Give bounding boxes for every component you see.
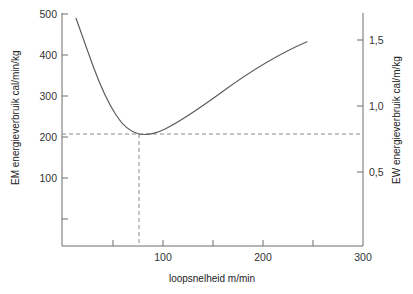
left-tick-label-100: 100 [39, 172, 57, 184]
x-tick-label-300: 300 [354, 251, 372, 263]
chart-page: 500 400 300 200 100 1,5 1,0 0,5 100 200 … [0, 0, 413, 294]
plot-frame [62, 13, 363, 246]
em-energy-curve [76, 18, 307, 134]
x-tick-label-100: 100 [154, 251, 172, 263]
right-tick-label-1-5: 1,5 [369, 34, 384, 46]
left-axis-ticks [62, 14, 68, 219]
left-tick-label-400: 400 [39, 49, 57, 61]
left-tick-label-200: 200 [39, 131, 57, 143]
right-axis-ticks [357, 40, 363, 172]
left-tick-label-500: 500 [39, 8, 57, 20]
bottom-axis-title: loopsnelheid m/min [169, 273, 255, 284]
energy-expenditure-vs-walking-speed-chart: 500 400 300 200 100 1,5 1,0 0,5 100 200 … [0, 0, 413, 294]
right-tick-label-1-0: 1,0 [369, 100, 384, 112]
x-tick-label-200: 200 [254, 251, 272, 263]
right-axis-title: EW energieverbruik cal/m/kg [391, 56, 402, 184]
bottom-axis-ticks [113, 240, 313, 246]
left-axis-title: EM energieverbruik cal/min/kg [10, 51, 21, 186]
left-tick-label-300: 300 [39, 90, 57, 102]
right-tick-label-0-5: 0,5 [369, 166, 384, 178]
